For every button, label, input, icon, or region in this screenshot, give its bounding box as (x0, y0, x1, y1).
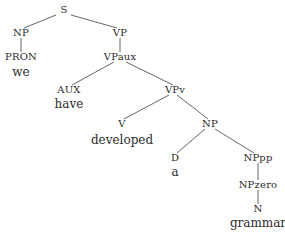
node-vp: VP (113, 28, 127, 38)
node-nppp: NPpp (243, 153, 272, 163)
node-np2: NP (202, 119, 218, 129)
edge-vpv-np2 (177, 95, 208, 119)
syntax-tree: SNPPRONweVPVPauxAUXhaveVPvVdevelopedNPDa… (0, 0, 285, 232)
tree-edges (0, 0, 285, 232)
edge-vpaux-aux (72, 62, 114, 85)
leaf-word-we: we (12, 66, 29, 78)
edge-np2-nppp (215, 129, 254, 153)
node-d: D (171, 153, 179, 163)
node-aux: AUX (57, 85, 80, 95)
leaf-word-have: have (55, 98, 84, 110)
edge-s-vp (71, 15, 117, 28)
node-v: V (118, 119, 125, 129)
edge-vpv-v (124, 95, 169, 119)
edge-vpaux-vpv (126, 62, 173, 85)
node-npzero: NPzero (239, 180, 278, 190)
node-vpaux: VPaux (104, 52, 137, 62)
node-vpv: VPv (165, 85, 185, 95)
leaf-word-developed: developed (91, 134, 153, 146)
node-s: S (60, 5, 67, 15)
leaf-word-a: a (171, 166, 178, 178)
leaf-word-grammar: grammar (230, 217, 285, 229)
node-pron: PRON (5, 52, 37, 62)
node-np1: NP (13, 28, 29, 38)
node-n: N (254, 204, 263, 214)
edge-np2-d (177, 129, 205, 153)
